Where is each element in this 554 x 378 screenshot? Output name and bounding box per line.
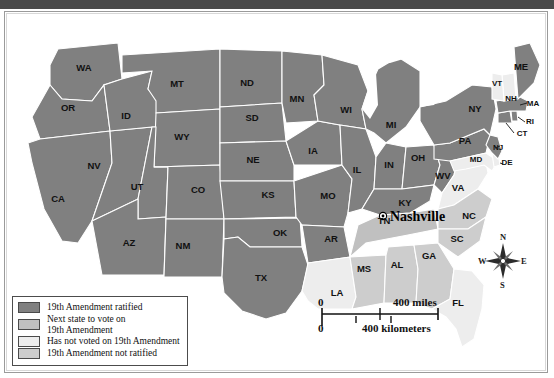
state-label-AL: AL	[391, 259, 404, 270]
state-label-MI: MI	[386, 119, 397, 130]
city-label-nashville: Nashville	[390, 209, 445, 224]
state-label-PA: PA	[459, 135, 472, 146]
map-figure: .sp{stroke:#ffffff;stroke-width:1.1;} .r…	[0, 0, 554, 378]
state-label-MN: MN	[290, 93, 305, 104]
state-label-AZ: AZ	[123, 237, 136, 248]
map-scale-bar: 0 400 miles 0 400 kilometers	[318, 296, 458, 342]
legend-item-not-voted: Has not voted on 19th Amendment	[18, 336, 182, 347]
state-KS	[220, 181, 296, 219]
page-scan-band	[0, 0, 554, 9]
state-label-NJ: NJ	[493, 143, 503, 152]
state-label-WI: WI	[340, 104, 352, 115]
legend-item-next: Next state to vote on19th Amendment	[18, 314, 182, 335]
state-label-VT: VT	[492, 79, 502, 88]
state-label-AR: AR	[324, 233, 338, 244]
state-label-VA: VA	[452, 182, 465, 193]
legend-swatch-not-ratified	[18, 348, 40, 359]
state-label-SC: SC	[450, 233, 463, 244]
legend-label-next: Next state to vote on19th Amendment	[47, 314, 126, 335]
legend-label-not-ratified: 19th Amendment not ratified	[47, 348, 157, 359]
state-label-CA: CA	[51, 193, 65, 204]
state-label-NE: NE	[246, 154, 259, 165]
state-label-TX: TX	[255, 272, 268, 283]
state-label-OH: OH	[411, 152, 425, 163]
scale-bar-graphic	[318, 296, 458, 342]
state-label-DE: DE	[501, 158, 513, 167]
state-label-SD: SD	[245, 112, 258, 123]
state-label-MS: MS	[357, 263, 371, 274]
state-label-MO: MO	[320, 190, 335, 201]
state-label-MA: MA	[527, 99, 540, 108]
state-label-RI: RI	[526, 117, 534, 126]
legend-swatch-not-voted	[18, 336, 40, 347]
state-label-OK: OK	[273, 227, 287, 238]
state-label-NV: NV	[87, 160, 101, 171]
state-label-GA: GA	[422, 250, 436, 261]
state-label-IL: IL	[353, 164, 362, 175]
state-label-KY: KY	[398, 197, 412, 208]
state-RI	[511, 111, 518, 121]
state-label-NY: NY	[468, 103, 482, 114]
state-IA	[286, 121, 342, 165]
legend-label-ratified: 19th Amendment ratified	[47, 302, 143, 313]
state-NM	[164, 219, 224, 277]
legend-item-not-ratified: 19th Amendment not ratified	[18, 348, 182, 359]
state-label-MT: MT	[170, 78, 184, 89]
state-label-WV: WV	[435, 170, 451, 181]
state-label-KS: KS	[261, 189, 274, 200]
legend-label-not-voted: Has not voted on 19th Amendment	[47, 336, 180, 347]
state-label-WY: WY	[174, 131, 190, 142]
state-label-TN: TN	[378, 215, 391, 226]
leader-CT	[506, 123, 514, 133]
compass-rose: N S E W	[476, 232, 530, 290]
leader-RI	[518, 117, 525, 122]
state-SD	[220, 103, 286, 143]
state-AR	[302, 225, 350, 263]
state-label-NH: NH	[505, 94, 517, 103]
legend-swatch-ratified	[18, 302, 40, 313]
state-label-WA: WA	[76, 62, 91, 73]
compass-star-icon	[476, 232, 530, 290]
state-label-NC: NC	[462, 210, 476, 221]
state-label-IN: IN	[384, 159, 394, 170]
state-label-IA: IA	[308, 145, 318, 156]
state-label-ID: ID	[121, 110, 131, 121]
state-label-UT: UT	[131, 181, 144, 192]
state-label-ME: ME	[514, 61, 528, 72]
state-label-CO: CO	[191, 184, 205, 195]
legend-item-ratified: 19th Amendment ratified	[18, 302, 182, 313]
legend-swatch-next	[18, 319, 40, 330]
state-label-NM: NM	[176, 240, 191, 251]
state-label-OR: OR	[61, 102, 75, 113]
state-AL	[384, 245, 418, 303]
state-label-MD: MD	[470, 155, 483, 164]
lake-huron-erie	[420, 67, 446, 107]
map-legend: 19th Amendment ratified Next state to vo…	[12, 296, 188, 366]
state-label-CT: CT	[517, 129, 528, 138]
state-label-ND: ND	[240, 77, 254, 88]
